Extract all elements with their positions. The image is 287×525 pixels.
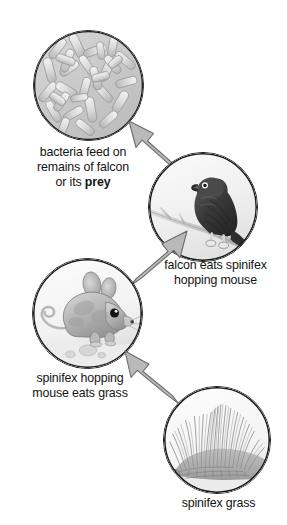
caption-grass: spinifex grass bbox=[150, 496, 287, 511]
arrow-grass-to-mouse bbox=[122, 348, 182, 406]
caption-grass-line-1: spinifex grass bbox=[150, 496, 287, 511]
spinifex-grass-circle-icon bbox=[163, 386, 271, 494]
food-chain-diagram: bacteria feed on remains of falcon or it… bbox=[0, 0, 287, 525]
arrow-mouse-to-falcon bbox=[128, 228, 190, 290]
caption-bacteria-line-3-text: or its bbox=[56, 175, 85, 189]
caption-bacteria-bold-word: prey bbox=[85, 175, 111, 189]
